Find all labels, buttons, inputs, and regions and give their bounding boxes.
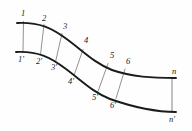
node-label-4: 4 xyxy=(84,36,88,45)
node-label-5: 5 xyxy=(110,51,114,60)
node-label-2: 2 xyxy=(42,14,46,23)
node-label-4-prime: 4' xyxy=(68,77,74,86)
rung-1 xyxy=(23,22,24,53)
node-label-5-prime: 5' xyxy=(92,93,98,102)
node-label-3: 3 xyxy=(63,22,67,31)
rung-2 xyxy=(41,25,45,55)
figure-root: 123456n1'2'3'4'5'6'n' xyxy=(0,0,192,131)
node-label-n-prime: n' xyxy=(169,115,175,124)
rung-3 xyxy=(56,34,63,63)
diagram-canvas xyxy=(0,0,192,131)
rung-4 xyxy=(74,50,83,76)
node-label-1: 1 xyxy=(21,9,25,18)
node-label-6: 6 xyxy=(126,57,130,66)
node-label-n: n xyxy=(172,67,176,76)
node-label-1-prime: 1' xyxy=(18,55,24,64)
node-label-6-prime: 6' xyxy=(110,101,116,110)
node-label-2-prime: 2' xyxy=(36,57,42,66)
node-label-3-prime: 3' xyxy=(51,63,57,72)
